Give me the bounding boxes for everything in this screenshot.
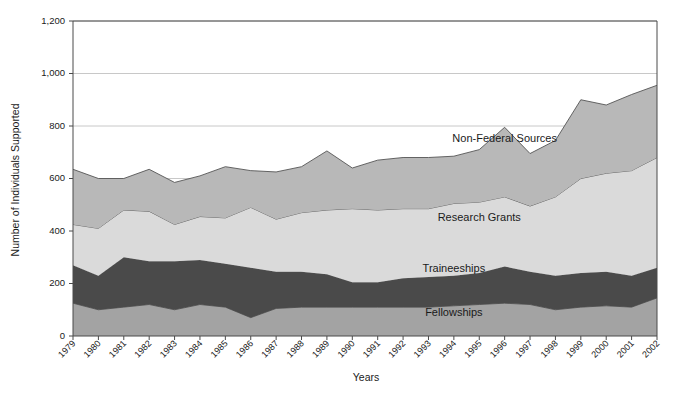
x-tick-label: 1988 bbox=[285, 338, 306, 359]
series-annotation-traineeships: Traineeships bbox=[423, 262, 486, 274]
area-series-group bbox=[73, 85, 657, 336]
x-tick-label: 1982 bbox=[132, 338, 153, 359]
series-annotation-research-grants: Research Grants bbox=[438, 211, 522, 223]
y-tick-labels-group: 02004006008001,0001,200 bbox=[41, 15, 73, 341]
y-tick-label: 0 bbox=[60, 330, 65, 341]
x-tick-label: 1983 bbox=[158, 338, 179, 359]
y-tick-label: 400 bbox=[49, 225, 65, 236]
x-tick-label: 1998 bbox=[539, 338, 560, 359]
x-tick-label: 1990 bbox=[335, 338, 356, 359]
x-tick-label: 1989 bbox=[310, 338, 331, 359]
x-tick-label: 1999 bbox=[564, 338, 585, 359]
x-tick-label: 1980 bbox=[82, 338, 103, 359]
x-tick-labels-group: 1979198019811982198319841985198619871988… bbox=[56, 336, 661, 360]
x-tick-label: 1996 bbox=[488, 338, 509, 359]
series-annotation-fellowships: Fellowships bbox=[425, 306, 483, 318]
y-tick-label: 1,000 bbox=[41, 67, 65, 78]
x-tick-label: 1995 bbox=[462, 338, 483, 359]
x-tick-label: 2001 bbox=[615, 338, 636, 359]
x-tick-label: 1985 bbox=[209, 338, 230, 359]
y-tick-label: 600 bbox=[49, 172, 65, 183]
x-tick-label: 1986 bbox=[234, 338, 255, 359]
x-tick-label: 2002 bbox=[640, 338, 661, 359]
x-tick-label: 1997 bbox=[513, 338, 534, 359]
x-tick-label: 1992 bbox=[386, 338, 407, 359]
y-tick-label: 800 bbox=[49, 120, 65, 131]
y-tick-label: 200 bbox=[49, 277, 65, 288]
x-tick-label: 1991 bbox=[361, 338, 382, 359]
x-tick-label: 1994 bbox=[437, 338, 458, 359]
x-tick-label: 1987 bbox=[259, 338, 280, 359]
chart-canvas: 02004006008001,0001,200 1979198019811982… bbox=[0, 0, 673, 395]
x-tick-label: 1984 bbox=[183, 338, 204, 359]
x-tick-label: 1979 bbox=[56, 338, 77, 359]
x-tick-label: 1981 bbox=[107, 338, 128, 359]
x-axis-title: Years bbox=[353, 371, 379, 383]
series-annotation-non-federal-sources: Non-Federal Sources bbox=[452, 132, 557, 144]
stacked-area-chart: 02004006008001,0001,200 1979198019811982… bbox=[0, 0, 673, 395]
x-tick-label: 2000 bbox=[589, 338, 610, 359]
y-axis-title: Number of Individuals Supported bbox=[9, 103, 21, 256]
y-tick-label: 1,200 bbox=[41, 15, 65, 26]
x-tick-label: 1993 bbox=[412, 338, 433, 359]
